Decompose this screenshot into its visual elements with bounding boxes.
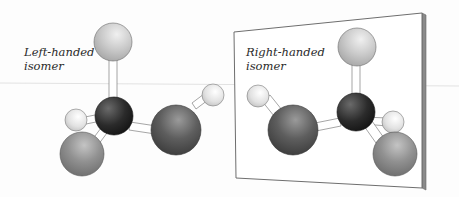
small-white-atom [382,111,404,133]
medium-gray-atom [373,132,417,176]
small-white-atom [65,109,87,131]
large-dark-atom [151,105,201,155]
left-isomer-label: Left-handed isomer [24,45,94,73]
small-white-atom [247,85,269,107]
medium-gray-atom [60,132,104,176]
molecule-illustration [0,0,459,197]
large-dark-atom [268,105,318,155]
small-white-atom [202,84,224,106]
right-label-line2: isomer [246,59,325,73]
right-isomer-label: Right-handed isomer [246,45,325,73]
right-label-line1: Right-handed [246,45,325,59]
left-label-line1: Left-handed [24,45,94,59]
light-gray-atom [94,23,132,61]
chirality-figure: Left-handed isomer Right-handed isomer [0,0,459,197]
central-carbon-atom [337,93,375,131]
central-carbon-atom [95,97,133,135]
left-label-line2: isomer [24,59,94,73]
light-gray-atom [338,28,376,66]
